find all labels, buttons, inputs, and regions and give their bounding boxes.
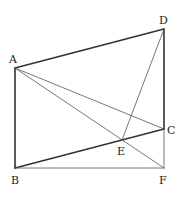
segment-AD (15, 29, 164, 68)
label-A: A (8, 53, 18, 66)
label-E: E (117, 145, 125, 158)
segment-AF (15, 68, 164, 168)
label-B: B (11, 174, 19, 187)
segment-BC (15, 129, 164, 168)
segment-AC (15, 68, 164, 129)
geometry-diagram: A B C D E F (0, 0, 183, 197)
label-D: D (159, 14, 168, 27)
point-labels: A B C D E F (8, 14, 175, 187)
label-C: C (167, 124, 175, 137)
label-F: F (159, 174, 167, 187)
segment-DE (122, 29, 164, 140)
segments (15, 29, 164, 168)
